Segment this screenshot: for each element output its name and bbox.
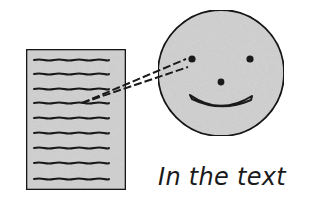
- nose-icon: [218, 79, 225, 86]
- left-eye-icon: [188, 55, 195, 62]
- text-line: [34, 89, 109, 90]
- text-line: [34, 60, 109, 61]
- text-line: [34, 148, 109, 149]
- page-sheet: [27, 50, 126, 190]
- text-line: [34, 118, 109, 119]
- caption-text: In the text: [158, 163, 298, 191]
- text-page: [27, 50, 126, 190]
- right-eye-icon: [246, 55, 253, 62]
- face-circle: [158, 10, 284, 136]
- text-line: [34, 179, 109, 180]
- text-line: [34, 163, 109, 164]
- text-line: [34, 133, 109, 134]
- text-line: [34, 103, 109, 104]
- text-line: [34, 74, 109, 75]
- smiley-face: [158, 10, 284, 136]
